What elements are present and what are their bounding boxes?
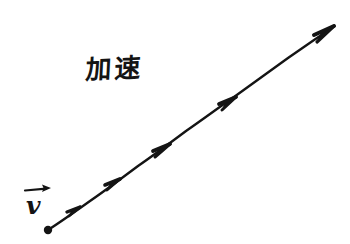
handdrawn-vector-diagram [0, 0, 350, 244]
origin-dot [44, 226, 52, 234]
acceleration-label: 加速 [85, 54, 144, 83]
figure-canvas-root: 加速 v [0, 0, 350, 244]
velocity-label: v [26, 193, 41, 218]
figure-background [0, 0, 350, 244]
